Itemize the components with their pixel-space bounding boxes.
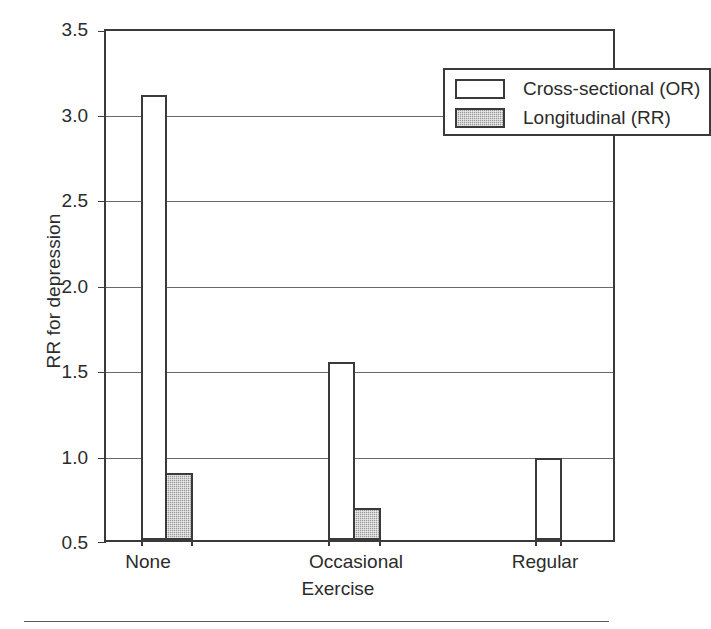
x-tickmark — [560, 540, 562, 546]
chart-legend: Cross-sectional (OR) Longitudinal (RR) — [443, 68, 711, 136]
x-tickmark — [379, 540, 381, 546]
x-tickmark — [191, 540, 193, 546]
y-tickmark-2.0 — [98, 287, 106, 288]
y-tickmark-1.0 — [98, 458, 106, 459]
y-tick-label: 0.5 — [42, 533, 88, 552]
y-tickmark-0.5 — [98, 542, 106, 543]
gridline-1.5 — [106, 372, 613, 373]
y-axis-tick-labels: 3.5 3.0 2.5 2.0 1.5 1.0 0.5 — [42, 0, 88, 629]
x-axis-title: Exercise — [248, 578, 428, 600]
x-tick-label-none: None — [88, 551, 208, 573]
y-tickmark-3.5 — [98, 31, 106, 32]
gridline-2.5 — [106, 201, 613, 202]
y-tick-label: 1.5 — [42, 362, 88, 381]
legend-label: Cross-sectional (OR) — [523, 78, 700, 100]
plot-area: Cross-sectional (OR) Longitudinal (RR) — [104, 29, 615, 542]
x-tick-label-occasional: Occasional — [276, 551, 436, 573]
bar-none-cross-sectional[interactable] — [141, 95, 167, 540]
legend-label: Longitudinal (RR) — [523, 107, 671, 129]
bar-none-longitudinal[interactable] — [165, 473, 193, 540]
y-tick-label: 2.5 — [42, 191, 88, 210]
y-tick-label: 1.0 — [42, 448, 88, 467]
bar-occasional-longitudinal[interactable] — [353, 508, 381, 540]
x-tickmark — [535, 540, 537, 546]
x-tick-label-regular: Regular — [480, 551, 610, 573]
bottom-divider — [24, 621, 609, 622]
y-tick-label: 3.0 — [42, 106, 88, 125]
legend-entry-cross-sectional: Cross-sectional (OR) — [455, 75, 701, 102]
y-tick-label: 2.0 — [42, 277, 88, 296]
bar-regular-cross-sectional[interactable] — [535, 458, 562, 540]
legend-swatch-filled-icon — [455, 108, 505, 128]
y-tickmark-2.5 — [98, 201, 106, 202]
x-tickmark — [328, 540, 330, 546]
y-tick-label: 3.5 — [42, 20, 88, 39]
x-tickmark — [141, 540, 143, 546]
y-tickmark-3.0 — [98, 116, 106, 117]
legend-swatch-open-icon — [455, 79, 505, 99]
legend-entry-longitudinal: Longitudinal (RR) — [455, 104, 701, 131]
gridline-2.0 — [106, 287, 613, 288]
bar-occasional-cross-sectional[interactable] — [328, 362, 355, 540]
y-tickmark-1.5 — [98, 372, 106, 373]
